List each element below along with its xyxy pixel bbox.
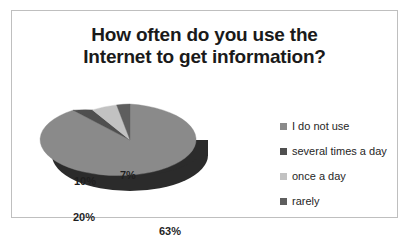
legend-item-rarely[interactable]: rarely	[280, 190, 408, 213]
pie-value-label-i-do-not-use: 63%	[159, 225, 181, 237]
chart-legend: I do not use several times a day once a …	[280, 115, 408, 215]
legend-item-label: once a day	[292, 171, 346, 182]
chart-frame: How often do you use the Internet to get…	[11, 10, 398, 218]
legend-item-i-do-not-use[interactable]: I do not use	[280, 115, 408, 138]
chart-title: How often do you use the Internet to get…	[12, 24, 397, 69]
legend-swatch-icon	[280, 123, 287, 130]
pie-value-label-several-times-a-day: 20%	[73, 211, 95, 223]
legend-item-several-times-a-day[interactable]: several times a day	[280, 140, 408, 163]
pie-value-label-rarely: 7%	[120, 169, 136, 181]
pie-value-label-once-a-day: 10%	[74, 175, 96, 187]
legend-item-label: rarely	[292, 196, 320, 207]
chart-title-line-1: How often do you use the	[12, 24, 397, 46]
legend-item-label: several times a day	[292, 146, 387, 157]
pie-chart-graphic	[12, 83, 267, 218]
legend-item-once-a-day[interactable]: once a day	[280, 165, 408, 188]
legend-swatch-icon	[280, 148, 287, 155]
legend-swatch-icon	[280, 173, 287, 180]
pie-chart-plot-area: 63% 20% 10% 7%	[12, 83, 267, 218]
chart-title-line-2: Internet to get information?	[12, 46, 397, 68]
legend-item-label: I do not use	[292, 121, 350, 132]
legend-swatch-icon	[280, 198, 287, 205]
